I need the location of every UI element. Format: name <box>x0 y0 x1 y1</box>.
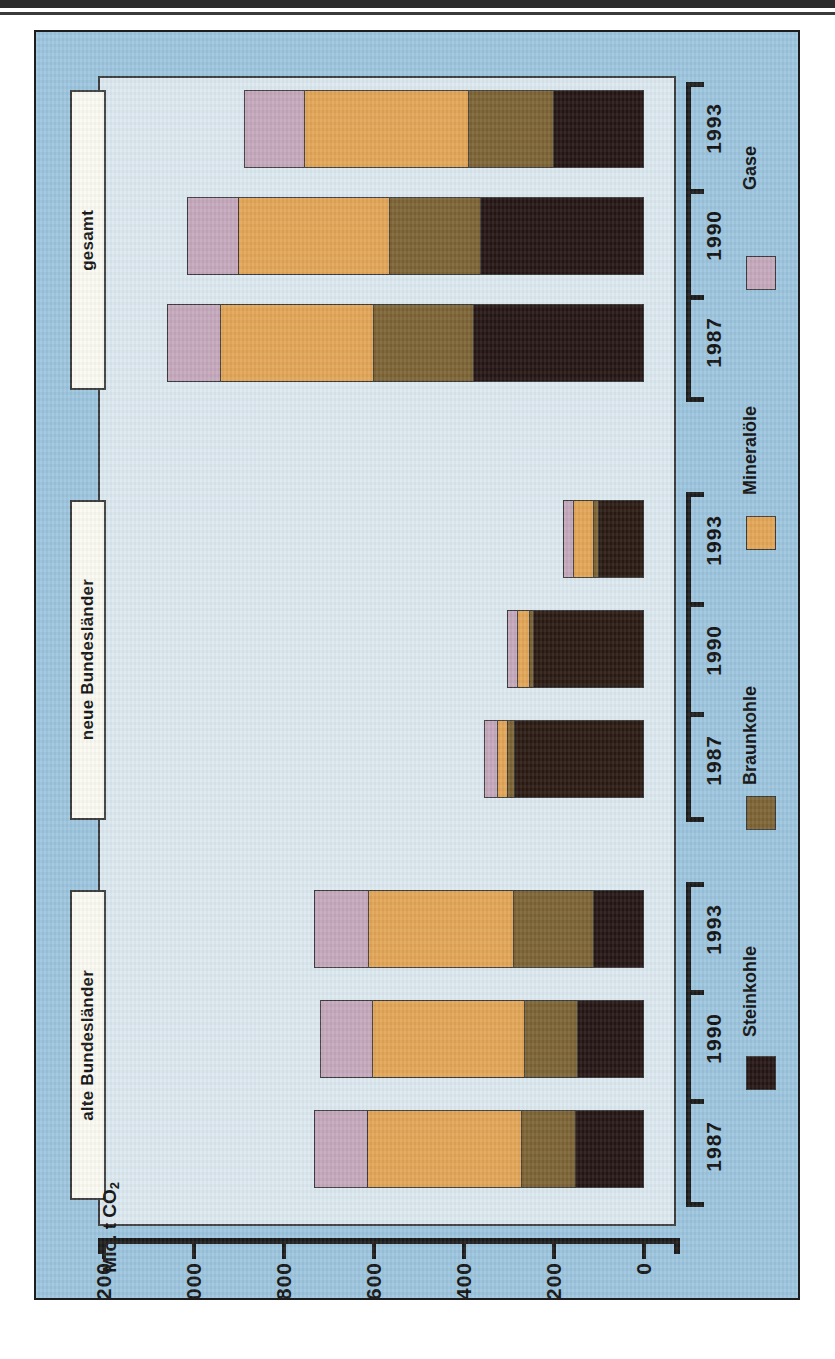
chart-figure: gesamt neue Bundesländer alte Bundesländ… <box>34 30 800 1300</box>
value-tick-800 <box>282 1244 286 1259</box>
value-tick-label-600: 600 <box>362 1262 386 1300</box>
category-tick <box>686 189 704 194</box>
bar-segment-oel <box>372 1001 524 1077</box>
category-axis: 199319901987199319901987199319901987 <box>686 76 692 1226</box>
category-tick <box>686 1099 704 1104</box>
bar-segment-stein <box>593 891 643 967</box>
bar-gesamt-1987 <box>167 304 644 382</box>
bar-segment-stein <box>480 198 643 274</box>
axis-title-subscript: 2 <box>107 1182 122 1189</box>
value-tick-label-200: 200 <box>542 1262 566 1300</box>
bar-neue-1987 <box>484 720 644 798</box>
value-tick-200 <box>552 1244 556 1259</box>
bar-segment-stein <box>575 1111 643 1187</box>
bar-segment-oel <box>517 611 529 687</box>
legend-label-braun: Braunkohle <box>740 686 761 785</box>
bar-segment-gase <box>188 198 238 274</box>
bar-segment-gase <box>321 1001 372 1077</box>
bar-neue-1990 <box>507 610 644 688</box>
page-top-rule-secondary <box>0 12 835 15</box>
group-label-neue: neue Bundesländer <box>70 500 106 820</box>
year-label-gesamt-1987: 1987 <box>702 317 726 368</box>
bar-segment-gase <box>564 501 573 577</box>
bar-alte-1993 <box>314 890 644 968</box>
bar-segment-oel <box>367 1111 521 1187</box>
legend-swatch-braun <box>746 796 776 830</box>
year-label-alte-1987: 1987 <box>702 1121 726 1172</box>
bar-segment-oel <box>573 501 592 577</box>
legend-label-oel: Mineralöle <box>740 406 761 495</box>
year-label-alte-1990: 1990 <box>702 1013 726 1064</box>
category-bracket-gesamt <box>686 82 691 402</box>
year-label-gesamt-1993: 1993 <box>702 103 726 154</box>
bar-neue-1993 <box>563 500 644 578</box>
bar-segment-gase <box>485 721 497 797</box>
year-label-alte-1993: 1993 <box>702 904 726 955</box>
value-tick-label-1200: 1200 <box>92 1262 116 1300</box>
bar-gesamt-1990 <box>187 197 644 275</box>
bar-segment-gase <box>168 305 220 381</box>
bar-segment-gase <box>245 91 304 167</box>
value-tick-label-400: 400 <box>452 1262 476 1300</box>
bar-segment-oel <box>497 721 507 797</box>
bar-segment-gase <box>315 1111 367 1187</box>
category-tick <box>686 295 704 300</box>
year-label-neue-1990: 1990 <box>702 625 726 676</box>
bar-segment-stein <box>553 91 643 167</box>
bar-segment-braun <box>468 91 554 167</box>
page-top-rule <box>0 0 835 8</box>
chart-legend: SteinkohleBraunkohleMineralöleGase <box>736 76 796 1226</box>
value-tick-1 000 <box>192 1244 196 1259</box>
bar-segment-braun <box>513 891 594 967</box>
category-bracket-alte <box>686 882 691 1207</box>
bar-segment-gase <box>315 891 368 967</box>
category-tick <box>686 602 704 607</box>
axis-title: Mio. t CO2 <box>99 1182 122 1273</box>
legend-swatch-stein <box>746 1056 776 1090</box>
bar-segment-stein <box>533 611 643 687</box>
bar-segment-braun <box>524 1001 578 1077</box>
bar-segment-stein <box>473 305 643 381</box>
bar-segment-braun <box>507 721 514 797</box>
value-tick-1200 <box>102 1244 106 1259</box>
bar-segment-braun <box>373 305 472 381</box>
bar-segment-braun <box>521 1111 575 1187</box>
bar-segment-stein <box>598 501 643 577</box>
group-label-gesamt-text: gesamt <box>78 210 98 271</box>
category-tick <box>686 712 704 717</box>
year-label-neue-1987: 1987 <box>702 735 726 786</box>
bar-segment-oel <box>220 305 373 381</box>
group-label-gesamt: gesamt <box>70 90 106 390</box>
bar-alte-1987 <box>314 1110 644 1188</box>
bar-segment-oel <box>238 198 389 274</box>
category-bracket-neue <box>686 492 691 822</box>
group-label-neue-text: neue Bundesländer <box>78 579 98 740</box>
group-label-alte: alte Bundesländer <box>70 890 106 1200</box>
bar-segment-stein <box>577 1001 643 1077</box>
value-tick-600 <box>372 1244 376 1259</box>
category-tick <box>686 990 704 995</box>
year-label-gesamt-1990: 1990 <box>702 210 726 261</box>
value-tick-0 <box>642 1244 646 1259</box>
bar-segment-oel <box>368 891 513 967</box>
legend-swatch-gase <box>746 256 776 290</box>
bar-alte-1990 <box>320 1000 644 1078</box>
value-tick-label-1 000: 1 000 <box>182 1262 206 1300</box>
bar-segment-oel <box>304 91 468 167</box>
axis-title-text: Mio. t CO <box>99 1189 120 1272</box>
legend-swatch-oel <box>746 516 776 550</box>
group-label-alte-text: alte Bundesländer <box>78 970 98 1121</box>
year-label-neue-1993: 1993 <box>702 515 726 566</box>
legend-label-stein: Steinkohle <box>740 946 761 1037</box>
bar-segment-braun <box>389 198 480 274</box>
bar-gesamt-1993 <box>244 90 644 168</box>
value-tick-400 <box>462 1244 466 1259</box>
value-axis <box>98 1238 680 1244</box>
bar-segment-gase <box>508 611 517 687</box>
value-tick-label-800: 800 <box>272 1262 296 1300</box>
bar-segment-stein <box>514 721 643 797</box>
value-tick-label-0: 0 <box>632 1262 656 1275</box>
legend-label-gase: Gase <box>740 146 761 190</box>
